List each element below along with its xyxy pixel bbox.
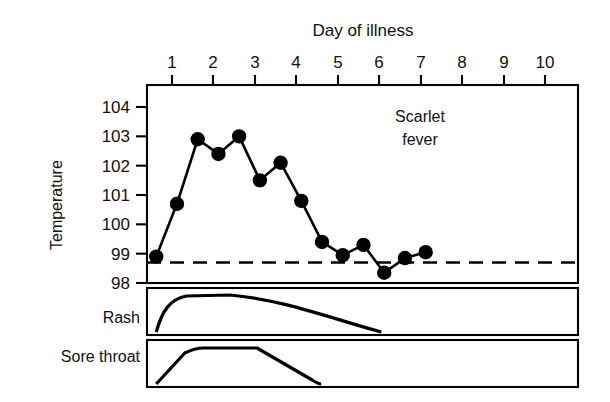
temperature-data-point	[232, 129, 246, 143]
y-axis-tick-labels: 1041031021011009998	[102, 98, 130, 293]
y-tick-label-100: 100	[102, 215, 130, 234]
x-tick-label-5: 5	[333, 53, 342, 72]
temperature-data-points	[149, 129, 433, 280]
x-tick-label-8: 8	[457, 53, 466, 72]
y-tick-label-99: 99	[111, 245, 130, 264]
x-tick-label-10: 10	[536, 53, 555, 72]
temperature-data-point	[211, 147, 225, 161]
sore-throat-duration-curve	[156, 348, 321, 384]
temperature-data-point	[191, 132, 205, 146]
temperature-data-point	[377, 266, 391, 280]
chart-canvas: Day of illness Temperature Scarlet fever…	[0, 0, 610, 402]
temperature-data-point	[170, 197, 184, 211]
annotation-fever: fever	[402, 131, 438, 148]
temperature-data-point	[356, 238, 370, 252]
panel-label-rash: Rash	[103, 309, 140, 326]
temperature-data-point	[273, 156, 287, 170]
x-tick-label-3: 3	[250, 53, 259, 72]
x-tick-label-2: 2	[208, 53, 217, 72]
x-tick-label-7: 7	[416, 53, 425, 72]
y-tick-label-102: 102	[102, 157, 130, 176]
temperature-data-point	[294, 194, 308, 208]
temperature-data-point	[418, 245, 432, 259]
y-tick-label-104: 104	[102, 98, 130, 117]
y-axis-label: Temperature	[48, 160, 65, 250]
x-tick-label-6: 6	[374, 53, 383, 72]
temperature-data-point	[149, 249, 163, 263]
temperature-data-point	[315, 235, 329, 249]
temperature-data-point	[398, 251, 412, 265]
y-tick-label-101: 101	[102, 186, 130, 205]
temperature-data-point	[253, 173, 267, 187]
temperature-curve	[156, 136, 425, 272]
y-tick-label-98: 98	[111, 274, 130, 293]
x-axis-tick-labels: 12345678910	[167, 53, 554, 72]
annotation-scarlet: Scarlet	[395, 108, 445, 125]
temperature-panel-frame	[147, 85, 578, 283]
x-axis-ticks	[172, 75, 545, 85]
x-tick-label-9: 9	[499, 53, 508, 72]
temperature-data-point	[336, 248, 350, 262]
panel-label-sore-throat: Sore throat	[61, 348, 141, 365]
fever-chart-figure: Day of illness Temperature Scarlet fever…	[0, 0, 610, 402]
rash-duration-curve	[156, 295, 381, 332]
y-tick-label-103: 103	[102, 127, 130, 146]
x-tick-label-4: 4	[291, 53, 300, 72]
y-axis-ticks	[136, 107, 147, 283]
chart-title: Day of illness	[312, 21, 413, 40]
x-tick-label-1: 1	[167, 53, 176, 72]
